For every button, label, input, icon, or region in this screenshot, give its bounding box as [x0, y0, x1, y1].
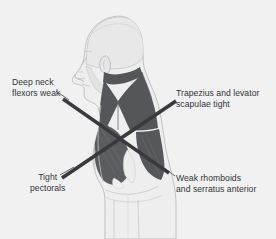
label-line-1: Trapezius and levator [176, 88, 259, 99]
label-line-2: and serratus anterior [176, 184, 256, 195]
head-shading [86, 17, 144, 69]
label-line-1: Tight [30, 172, 65, 183]
label-line-2: flexors weak [12, 88, 60, 99]
label-trapezius-levator-scapulae-tight: Trapezius and levator scapulae tight [176, 88, 259, 109]
ear [100, 56, 111, 73]
anatomy-illustration [0, 0, 276, 239]
label-deep-neck-flexors-weak: Deep neck flexors weak [12, 77, 60, 98]
upper-crossed-syndrome-figure: Deep neck flexors weak Trapezius and lev… [0, 0, 276, 239]
label-line-1: Deep neck [12, 77, 60, 88]
label-line-2: pectorals [30, 183, 65, 194]
label-weak-rhomboids-serratus-anterior: Weak rhomboids and serratus anterior [176, 173, 256, 194]
label-tight-pectorals: Tight pectorals [30, 172, 65, 193]
label-line-1: Weak rhomboids [176, 173, 256, 184]
label-line-2: scapulae tight [176, 99, 259, 110]
